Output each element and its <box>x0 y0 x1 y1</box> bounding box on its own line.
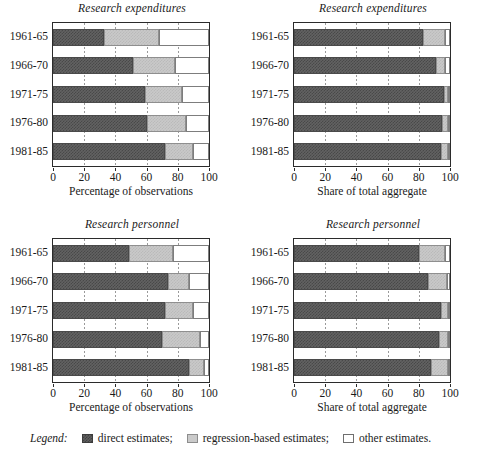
legend-swatch-regression-icon <box>187 434 198 443</box>
x-tick-label: 100 <box>200 171 217 183</box>
category-label: 1981-85 <box>0 361 48 373</box>
bar-segment-regression <box>441 302 449 319</box>
bar-segment-other <box>448 86 450 103</box>
category-label: 1981-85 <box>241 361 289 373</box>
x-tick-label: 40 <box>351 171 363 183</box>
bar-segment-direct <box>294 57 436 74</box>
bar-row <box>294 331 450 348</box>
bar-segment-direct <box>53 86 145 103</box>
bar-row <box>53 57 209 74</box>
bar-row <box>294 86 450 103</box>
bar-segment-other <box>445 245 450 262</box>
bar-row <box>53 245 209 262</box>
x-axis-title: Percentage of observations <box>52 185 210 197</box>
bar-row <box>53 302 209 319</box>
x-tick-label: 0 <box>291 387 297 399</box>
x-tick-label: 80 <box>172 387 184 399</box>
x-tick-label: 80 <box>413 387 425 399</box>
bar-segment-direct <box>53 245 129 262</box>
bar-segment-direct <box>294 331 439 348</box>
bar-segment-direct <box>294 143 441 160</box>
bar-segment-regression <box>165 302 193 319</box>
bar-segment-direct <box>53 143 165 160</box>
bar-row <box>294 273 450 290</box>
legend-swatch-direct-icon <box>82 434 93 443</box>
plot-area <box>293 238 451 383</box>
bar-row <box>53 273 209 290</box>
bar-segment-direct <box>53 115 147 132</box>
bar-segment-regression <box>439 331 448 348</box>
panel-expenditures-observations: Research expenditures 020406080100 Perce… <box>0 0 240 205</box>
legend-entry-regression: regression-based estimates; <box>187 432 329 444</box>
category-label: 1976-80 <box>241 116 289 128</box>
x-axis-title: Share of total aggregate <box>293 185 451 197</box>
x-tick-label: 0 <box>50 387 56 399</box>
bar-segment-other <box>159 29 209 46</box>
bar-segment-other <box>204 359 209 376</box>
x-axis-title: Percentage of observations <box>52 401 210 413</box>
bar-segment-other <box>448 331 450 348</box>
panel-title: Research expenditures <box>52 2 212 14</box>
category-label: 1961-65 <box>241 246 289 258</box>
category-label: 1971-75 <box>241 88 289 100</box>
legend-swatch-other-icon <box>343 434 354 443</box>
legend-entry-label: other estimates. <box>359 432 431 444</box>
bar-segment-direct <box>294 302 441 319</box>
category-label: 1966-70 <box>0 59 48 71</box>
bar-segment-regression <box>431 359 448 376</box>
plot-area <box>52 238 210 383</box>
plot-inner <box>294 23 450 166</box>
bar-row <box>294 29 450 46</box>
bar-row <box>294 245 450 262</box>
category-label: 1976-80 <box>0 332 48 344</box>
category-label: 1976-80 <box>241 332 289 344</box>
x-tick-label: 100 <box>441 171 458 183</box>
legend-entry-label: regression-based estimates; <box>203 432 329 444</box>
bar-segment-direct <box>53 359 189 376</box>
bar-segment-other <box>445 29 450 46</box>
panel-title: Research expenditures <box>293 2 453 14</box>
x-tick-label: 100 <box>200 387 217 399</box>
bar-segment-direct <box>53 331 162 348</box>
category-label: 1971-75 <box>241 304 289 316</box>
x-tick-label: 80 <box>172 171 184 183</box>
bar-segment-regression <box>189 359 205 376</box>
bar-segment-direct <box>294 115 442 132</box>
category-label: 1966-70 <box>241 59 289 71</box>
bar-segment-other <box>448 115 450 132</box>
bar-segment-other <box>193 302 209 319</box>
x-axis-ticks: 020406080100 <box>52 168 210 184</box>
bar-row <box>294 57 450 74</box>
bar-segment-direct <box>53 302 165 319</box>
bar-segment-regression <box>436 57 445 74</box>
bar-segment-direct <box>53 29 104 46</box>
bar-segment-regression <box>129 245 173 262</box>
legend-entry-other: other estimates. <box>343 432 431 444</box>
panel-title: Research personnel <box>293 218 453 230</box>
x-axis-title: Share of total aggregate <box>293 401 451 413</box>
bar-segment-direct <box>53 57 133 74</box>
bar-row <box>294 115 450 132</box>
bar-segment-other <box>193 143 209 160</box>
x-axis-ticks: 020406080100 <box>293 168 451 184</box>
bar-segment-direct <box>53 273 168 290</box>
bar-row <box>294 359 450 376</box>
bar-segment-regression <box>419 245 446 262</box>
bar-segment-regression <box>441 143 449 160</box>
panel-personnel-aggregate: Research personnel 020406080100 Share of… <box>241 216 481 421</box>
plot-inner <box>53 239 209 382</box>
x-tick-label: 20 <box>78 171 90 183</box>
category-label: 1981-85 <box>241 145 289 157</box>
bar-segment-regression <box>162 331 199 348</box>
bar-segment-other <box>186 115 209 132</box>
x-tick-label: 60 <box>382 387 394 399</box>
bar-segment-regression <box>147 115 186 132</box>
bar-segment-regression <box>423 29 445 46</box>
bar-row <box>294 143 450 160</box>
bar-segment-other <box>175 57 209 74</box>
bar-segment-other <box>200 331 209 348</box>
bar-segment-other <box>173 245 209 262</box>
category-label: 1961-65 <box>0 30 48 42</box>
plot-inner <box>53 23 209 166</box>
plot-inner <box>294 239 450 382</box>
